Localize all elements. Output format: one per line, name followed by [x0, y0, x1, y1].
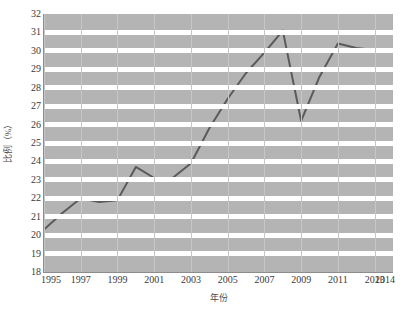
vertical-gridline: [191, 14, 192, 272]
horizontal-gridline: [44, 214, 393, 219]
x-tick-label: 2014: [375, 274, 395, 286]
x-tick-label: 2011: [328, 274, 348, 286]
vertical-gridline: [264, 14, 265, 272]
x-tick-label: 2003: [181, 274, 201, 286]
y-axis-line: [43, 14, 44, 273]
vertical-gridline: [375, 14, 376, 272]
y-tick-label: 22: [31, 193, 41, 203]
vertical-gridline: [81, 14, 82, 272]
x-axis-title: 年份: [44, 291, 393, 304]
y-tick-label: 25: [31, 138, 41, 148]
y-tick-label: 24: [31, 156, 41, 166]
y-tick-label: 28: [31, 83, 41, 93]
horizontal-gridline: [44, 104, 393, 109]
horizontal-gridline: [44, 177, 393, 182]
y-tick-label: 21: [31, 212, 41, 222]
vertical-gridline: [154, 14, 155, 272]
y-axis-title: 比例（%）: [0, 0, 16, 282]
x-tick-label: 1997: [71, 274, 91, 286]
y-tick-label: 26: [31, 120, 41, 130]
horizontal-gridline: [44, 30, 393, 35]
x-tick-label: 1999: [107, 274, 127, 286]
horizontal-gridline: [44, 122, 393, 127]
horizontal-gridline: [44, 141, 393, 146]
vertical-gridline: [301, 14, 302, 272]
y-tick-label: 20: [31, 230, 41, 240]
y-axis-title-label: 比例（%）: [2, 119, 15, 163]
x-tick-label: 1995: [41, 274, 61, 286]
line-chart: 比例（%） 323130292827262524232221201918 199…: [0, 0, 409, 313]
horizontal-gridline: [44, 85, 393, 90]
vertical-gridline: [117, 14, 118, 272]
plot-area: [44, 14, 393, 272]
vertical-gridline: [338, 14, 339, 272]
horizontal-gridline: [44, 48, 393, 53]
y-tick-label: 18: [31, 267, 41, 277]
y-tick-label: 27: [31, 101, 41, 111]
x-tick-label: 2005: [218, 274, 238, 286]
x-tick-label: 2001: [144, 274, 164, 286]
y-tick-label: 19: [31, 249, 41, 259]
horizontal-gridline: [44, 67, 393, 72]
y-tick-label: 23: [31, 175, 41, 185]
x-tick-label: 2007: [254, 274, 274, 286]
y-tick-label: 30: [31, 46, 41, 56]
vertical-gridline: [228, 14, 229, 272]
x-axis-tick-labels: 1995199719992001200320052007200920112013…: [44, 274, 393, 288]
y-axis-tick-labels: 323130292827262524232221201918: [17, 14, 41, 272]
vertical-gridline: [44, 14, 45, 272]
y-tick-label: 29: [31, 64, 41, 74]
horizontal-gridline: [44, 233, 393, 238]
horizontal-gridline: [44, 251, 393, 256]
x-axis-line: [43, 272, 393, 273]
y-tick-label: 32: [31, 9, 41, 19]
horizontal-gridline: [44, 159, 393, 164]
y-tick-label: 31: [31, 27, 41, 37]
x-tick-label: 2009: [291, 274, 311, 286]
horizontal-gridline: [44, 196, 393, 201]
